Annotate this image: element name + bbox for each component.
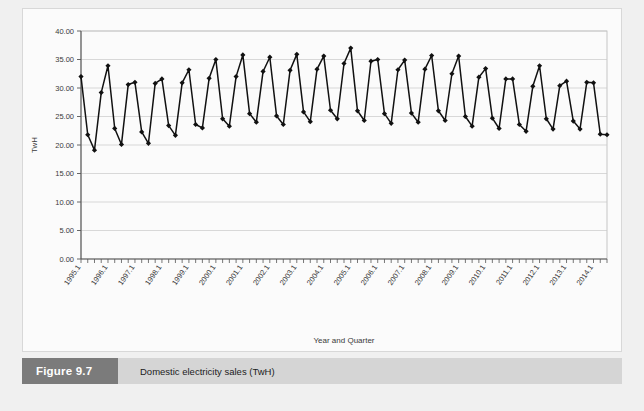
x-tick-label: 1999.1	[170, 263, 191, 287]
y-tick-label: 30.00	[55, 84, 74, 93]
y-tick-label: 10.00	[55, 198, 74, 207]
x-tick-label: 1997.1	[116, 263, 137, 287]
x-tick-label: 2007.1	[386, 263, 407, 287]
y-tick-label: 5.00	[59, 226, 74, 235]
figure-number-badge: Figure 9.7	[22, 358, 118, 384]
x-tick-label: 2006.1	[359, 263, 380, 287]
chart-panel: 0.005.0010.0015.0020.0025.0030.0035.0040…	[22, 8, 622, 352]
x-tick-label: 1995.1	[62, 263, 83, 287]
x-tick-label: 2008.1	[413, 263, 434, 287]
y-axis-title: TwH	[30, 137, 39, 153]
x-tick-label: 2000.1	[197, 263, 218, 287]
figure-caption-bar: Figure 9.7 Domestic electricity sales (T…	[22, 358, 622, 384]
figure-caption-text: Domestic electricity sales (TwH)	[118, 358, 622, 384]
figure-page: 0.005.0010.0015.0020.0025.0030.0035.0040…	[0, 0, 644, 411]
x-tick-label: 2011.1	[494, 263, 514, 287]
x-tick-label: 2013.1	[548, 263, 569, 287]
x-axis-title: Year and Quarter	[313, 336, 374, 345]
x-tick-label: 2001.1	[224, 263, 245, 287]
x-tick-label: 2014.1	[575, 263, 596, 287]
x-tick-label: 2005.1	[332, 263, 353, 287]
y-tick-label: 40.00	[55, 27, 74, 36]
x-tick-label: 1998.1	[143, 263, 164, 287]
x-tick-label: 2003.1	[278, 263, 299, 287]
x-tick-label: 2009.1	[440, 263, 461, 287]
x-tick-label: 2002.1	[251, 263, 272, 287]
y-tick-label: 20.00	[55, 141, 74, 150]
x-tick-label: 1996.1	[89, 263, 110, 287]
x-tick-label: 2010.1	[467, 263, 488, 287]
y-tick-label: 0.00	[59, 255, 74, 264]
line-chart: 0.005.0010.0015.0020.0025.0030.0035.0040…	[23, 9, 621, 351]
x-tick-label: 2004.1	[305, 263, 326, 287]
y-tick-label: 35.00	[55, 55, 74, 64]
x-tick-label: 2012.1	[521, 263, 542, 287]
y-tick-label: 15.00	[55, 169, 74, 178]
y-tick-label: 25.00	[55, 112, 74, 121]
